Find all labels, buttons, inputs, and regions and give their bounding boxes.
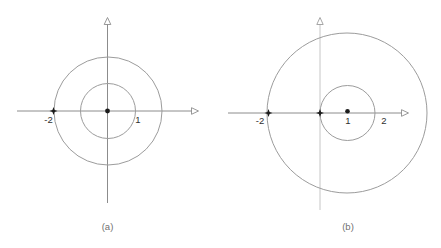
label-one: 1 <box>342 115 354 126</box>
y-axis-arrow-icon <box>104 18 111 25</box>
diagram-canvas: -2 1 (a) -2 1 2 (b) <box>0 0 441 248</box>
figure-a-plot <box>0 0 220 248</box>
label-one: 1 <box>132 114 144 125</box>
x-axis-arrow-icon <box>192 108 199 115</box>
origin-point-marker <box>105 109 110 114</box>
origin-star-marker <box>316 109 324 117</box>
figure-b-caption: (b) <box>332 221 364 233</box>
figure-a: -2 1 (a) <box>0 0 220 248</box>
x-axis-arrow-icon <box>402 110 409 117</box>
point-one-marker <box>345 109 350 114</box>
label-two: 2 <box>378 115 390 126</box>
y-axis-arrow-icon <box>317 18 323 25</box>
label-neg2: -2 <box>40 114 57 125</box>
figure-a-caption: (a) <box>92 221 123 233</box>
label-neg2: -2 <box>252 115 268 126</box>
figure-b: -2 1 2 (b) <box>220 0 441 248</box>
